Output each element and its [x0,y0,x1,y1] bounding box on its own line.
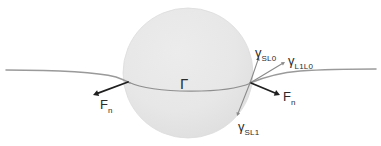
label-gamma-sl0: γSL0 [255,44,276,63]
figure-canvas: γSL0 γL1L0 γSL1 Fn Fn Γ [0,0,381,146]
arrow-gamma-l1l0 [250,62,285,83]
arrow-fn-left [93,82,128,96]
label-gamma-sl1: γSL1 [238,118,259,137]
label-fn-right: Fn [283,88,296,107]
label-contact-line-gamma: Γ [180,76,188,95]
label-gamma-l1l0: γL1L0 [288,52,313,71]
diagram-svg [0,0,381,146]
label-fn-left: Fn [100,96,113,115]
particle-sphere [123,8,253,138]
liquid-interface-left [6,70,130,83]
arrow-fn-right [251,83,280,96]
